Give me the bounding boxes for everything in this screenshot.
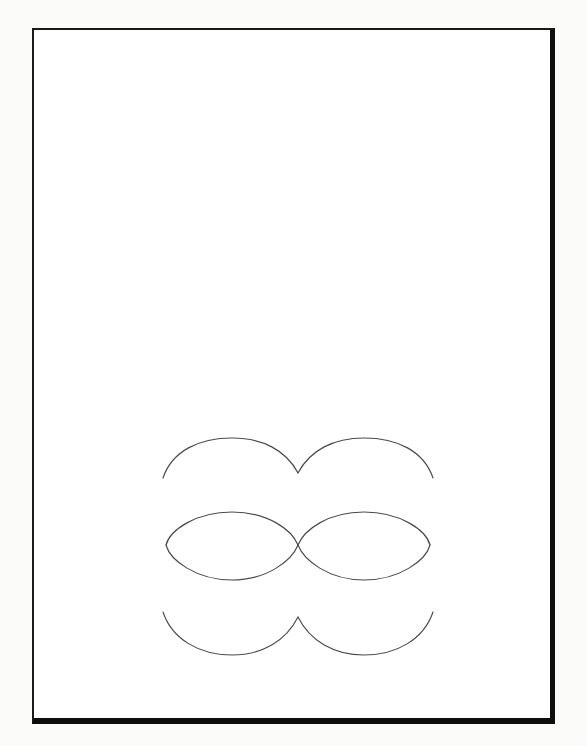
- page-sheet: [32, 28, 555, 724]
